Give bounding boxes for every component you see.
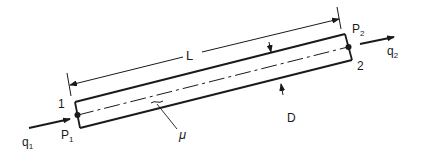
outlet-flow-label: q2 bbox=[387, 44, 399, 60]
viscosity-label: μ bbox=[178, 127, 186, 142]
inlet-flow-subscript: 1 bbox=[29, 142, 34, 151]
outlet-pressure-label: P2 bbox=[352, 22, 365, 38]
length-label: L bbox=[186, 48, 193, 63]
outlet-pressure-subscript: 2 bbox=[360, 29, 365, 38]
outlet-flow-subscript: 2 bbox=[394, 51, 399, 60]
inlet-flow-symbol: q bbox=[22, 135, 29, 149]
inlet-annotations: 1 q1 P1 bbox=[22, 97, 74, 151]
length-extension-right bbox=[337, 7, 341, 29]
inlet-pressure-label: P1 bbox=[61, 128, 74, 144]
outlet-node-label: 2 bbox=[357, 59, 364, 73]
inlet-node-dot bbox=[75, 112, 81, 118]
pipe-top-wall bbox=[75, 34, 345, 102]
viscosity-leader bbox=[157, 104, 177, 129]
outlet-flow-symbol: q bbox=[387, 44, 394, 58]
inlet-pressure-subscript: 1 bbox=[69, 135, 74, 144]
inlet-node-label: 1 bbox=[58, 97, 65, 111]
pipe-diagram: L D μ 1 q1 P1 P2 2 q2 bbox=[0, 0, 422, 155]
inlet-flow-label: q1 bbox=[22, 135, 34, 151]
outlet-node-dot bbox=[346, 44, 352, 50]
pipe-bottom-wall bbox=[80, 60, 352, 128]
viscosity-tick bbox=[151, 101, 163, 103]
inlet-pressure-symbol: P bbox=[61, 128, 69, 142]
inlet-flow-arrow bbox=[29, 119, 70, 128]
length-arrow-left bbox=[70, 57, 183, 85]
diameter-arrow-top bbox=[269, 42, 271, 52]
diameter-dimension: D bbox=[269, 42, 296, 125]
pipe-centerline bbox=[78, 47, 348, 115]
viscosity-annotation: μ bbox=[151, 101, 186, 142]
diameter-label: D bbox=[287, 111, 296, 125]
outlet-annotations: P2 2 q2 bbox=[352, 22, 399, 73]
length-dimension: L bbox=[67, 7, 341, 96]
outlet-pressure-symbol: P bbox=[352, 22, 360, 36]
diameter-arrow-bottom bbox=[281, 84, 283, 95]
outlet-flow-arrow bbox=[360, 37, 394, 44]
pipe bbox=[75, 34, 353, 128]
